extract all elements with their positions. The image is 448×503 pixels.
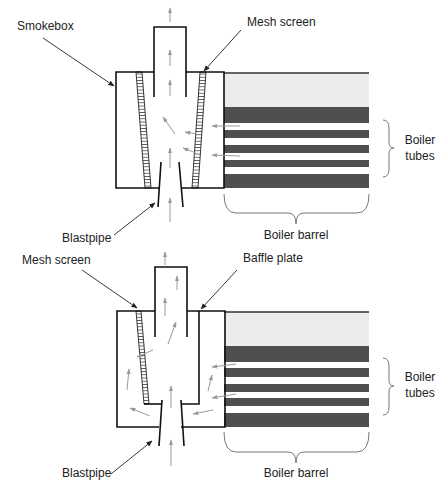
blastpipe-right-wall xyxy=(181,400,184,446)
boiler-tubes-label-line2: tubes xyxy=(405,149,434,163)
top-diagram: Smokebox Mesh screen Blastpipe Boiler tu… xyxy=(17,8,435,245)
blastpipe-leader-arrow xyxy=(111,441,152,474)
blastpipe-leader-arrow xyxy=(114,203,155,235)
mesh-screen-leader-arrow xyxy=(204,30,241,71)
boiler-barrel xyxy=(224,312,369,427)
blastpipe-right-wall xyxy=(179,162,183,207)
boiler-barrel xyxy=(224,73,369,188)
baffle-plate xyxy=(181,311,199,404)
boiler-barrel-label: Boiler barrel xyxy=(264,228,329,242)
mesh-screen-leader-arrow xyxy=(82,270,137,308)
smokebox-label: Smokebox xyxy=(17,19,74,33)
boiler-tubes-label-line1: Boiler xyxy=(405,133,436,147)
baffle-plate-label: Baffle plate xyxy=(243,251,303,265)
chimney xyxy=(155,267,187,337)
blastpipe-left-wall xyxy=(159,400,162,446)
boiler-tubes-label-line1: Boiler xyxy=(405,370,436,384)
smokebox-leader-arrow xyxy=(43,38,114,86)
mesh-screen-label: Mesh screen xyxy=(22,253,91,267)
boiler-tubes-brace xyxy=(383,358,394,415)
boiler-barrel-label: Boiler barrel xyxy=(264,466,329,480)
boiler-barrel-brace xyxy=(224,194,369,224)
mesh-screen-left xyxy=(136,72,151,188)
smokebox-diagrams: Smokebox Mesh screen Blastpipe Boiler tu… xyxy=(0,0,448,503)
boiler-barrel-brace xyxy=(224,432,369,463)
mesh-screen-label: Mesh screen xyxy=(247,15,316,29)
boiler-tubes-label-line2: tubes xyxy=(405,386,434,400)
mesh-screen xyxy=(136,311,149,404)
mesh-screen-right xyxy=(192,72,206,188)
boiler-tubes-brace xyxy=(383,120,394,177)
blastpipe-left-wall xyxy=(158,162,161,207)
blastpipe-label: Blastpipe xyxy=(62,231,112,245)
blastpipe-label: Blastpipe xyxy=(62,466,112,480)
bottom-diagram: Mesh screen Baffle plate Blastpipe Boile… xyxy=(22,251,435,480)
baffle-plate-leader-arrow xyxy=(201,270,237,309)
